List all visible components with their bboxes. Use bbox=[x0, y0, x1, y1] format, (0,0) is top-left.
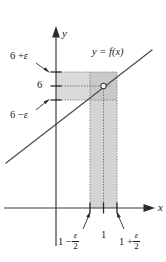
x-tick-left-numerator: ε bbox=[72, 231, 79, 240]
figure-canvas bbox=[0, 0, 166, 262]
y-tick-label-lower: 6 −ε bbox=[10, 110, 28, 121]
y-tick-lower-prefix: 6 − bbox=[10, 109, 24, 120]
open-circle-point bbox=[101, 83, 106, 88]
leader-arrowhead-right-delta bbox=[117, 212, 121, 219]
x-tick-left-denominator: 2 bbox=[72, 242, 79, 251]
x-tick-left-lead: 1 − bbox=[58, 236, 72, 247]
y-tick-label-center: 6 bbox=[37, 80, 42, 91]
y-tick-label-upper: 6 +ε bbox=[10, 51, 28, 62]
limit-epsilon-delta-figure: y x y = f(x) 6 +ε 6 6 −ε 1 −ε2 1 1 +ε2 bbox=[0, 0, 166, 262]
x-tick-label-left: 1 −ε2 bbox=[58, 231, 79, 252]
x-axis-arrowhead bbox=[144, 204, 156, 212]
y-tick-lower-epsilon: ε bbox=[24, 109, 28, 120]
leader-arrowhead-upper-epsilon bbox=[44, 67, 51, 73]
leader-arrowhead-left-delta bbox=[86, 212, 90, 219]
y-tick-upper-prefix: 6 + bbox=[10, 50, 24, 61]
function-line bbox=[6, 50, 152, 163]
x-tick-left-fraction: ε2 bbox=[72, 231, 79, 252]
x-tick-right-lead: 1 + bbox=[119, 236, 133, 247]
x-axis-label: x bbox=[158, 202, 163, 213]
y-tick-upper-epsilon: ε bbox=[24, 50, 28, 61]
y-axis-label: y bbox=[62, 28, 67, 39]
function-curve-label: y = f(x) bbox=[92, 47, 124, 58]
x-tick-right-numerator: ε bbox=[133, 231, 140, 240]
x-tick-label-center: 1 bbox=[101, 230, 106, 241]
x-tick-right-fraction: ε2 bbox=[133, 231, 140, 252]
x-tick-label-right: 1 +ε2 bbox=[119, 231, 140, 252]
x-tick-right-denominator: 2 bbox=[133, 242, 140, 251]
y-axis-arrowhead bbox=[52, 26, 60, 38]
